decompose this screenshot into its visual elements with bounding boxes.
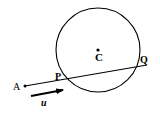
line-through-a-p-q xyxy=(25,65,147,86)
label-a: A xyxy=(13,81,21,92)
label-q: Q xyxy=(140,54,148,65)
circle-line-intersection-diagram: C A P Q u xyxy=(0,0,160,115)
label-p: P xyxy=(55,71,61,82)
label-u: u xyxy=(41,97,47,108)
point-a xyxy=(24,85,27,88)
label-c: C xyxy=(95,51,103,63)
direction-vector-arrow xyxy=(31,90,63,96)
